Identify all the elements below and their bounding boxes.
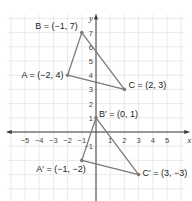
vertex-a-prime (80, 159, 84, 163)
y-tick-label: 2 (89, 100, 93, 109)
x-tick-label: 2 (122, 136, 126, 145)
x-tick-label: 4 (151, 136, 155, 145)
y-axis-name: y (88, 13, 93, 23)
x-tick-label: −5 (21, 136, 30, 145)
x-tick-label: −3 (49, 136, 58, 145)
x-tick-label: 5 (165, 136, 169, 145)
y-tick-label: 3 (89, 85, 93, 94)
y-tick-label: 7 (89, 29, 93, 38)
coordinate-plane: −5−4−3−2−1123457654321−1xy A = (−2, 4)B … (0, 0, 192, 201)
y-tick-label: 4 (89, 71, 93, 80)
vertex-b-prime (94, 116, 98, 120)
y-tick-label: 1 (89, 114, 93, 123)
x-axis-name: x (186, 135, 191, 145)
x-axis-arrow-left-icon (6, 130, 12, 134)
vertex-b (80, 31, 84, 35)
point-labels: A = (−2, 4)B = (−1, 7)C = (2, 3)A′ = (−1… (22, 21, 188, 178)
y-tick-label: 5 (89, 57, 93, 66)
point-label-a: A = (−2, 4) (22, 70, 64, 80)
vertex-a (66, 73, 70, 77)
x-axis-arrow-right-icon (184, 130, 190, 134)
vertex-c (123, 88, 127, 92)
x-tick-label: 3 (137, 136, 141, 145)
point-label-b-prime: B′ = (0, 1) (99, 109, 138, 119)
x-tick-label: −2 (63, 136, 72, 145)
y-axis-arrow-up-icon (94, 13, 98, 19)
x-tick-label: −4 (35, 136, 44, 145)
vertex-c-prime (137, 173, 141, 177)
point-label-c-prime: C′ = (3, −3) (143, 168, 188, 178)
point-label-a-prime: A′ = (−1, −2) (36, 164, 85, 174)
point-label-b: B = (−1, 7) (35, 21, 78, 31)
point-label-c: C = (2, 3) (128, 80, 166, 90)
